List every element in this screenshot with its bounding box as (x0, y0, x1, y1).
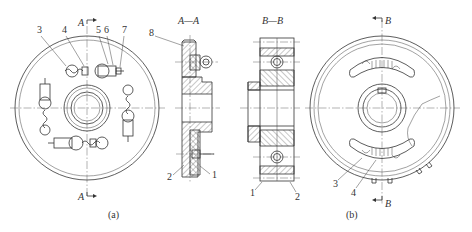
section-aa-title: A—A (177, 15, 200, 26)
spring-assembly-bottom (48, 136, 108, 150)
caption-b: (b) (346, 209, 358, 221)
label-5: 5 (96, 24, 101, 35)
section-mark-b-bottom: B (385, 198, 391, 209)
spring-assembly-right (122, 85, 134, 142)
view-a-front: A A 3 4 5 6 7 (a) (10, 17, 165, 221)
technical-drawing: A A 3 4 5 6 7 (a) A—A (0, 0, 472, 232)
caption-a: (a) (108, 209, 119, 221)
section-mark-a-bottom: A (77, 191, 85, 202)
section-bb-title: B—B (262, 15, 283, 26)
spring-assembly-top (65, 64, 124, 78)
spring-assembly-left (39, 78, 51, 135)
label-3: 3 (37, 24, 42, 35)
section-mark-b-top: B (385, 15, 391, 26)
view-section-bb: B—B 1 2 (240, 15, 300, 202)
label-1-aa: 1 (212, 169, 217, 180)
view-b-front: B B 3 4 (b) (305, 15, 460, 221)
label-8: 8 (149, 27, 154, 38)
label-4-b: 4 (351, 187, 356, 198)
view-section-aa: A—A 8 2 1 (149, 15, 220, 182)
section-mark-a-top: A (77, 17, 85, 28)
label-6: 6 (104, 24, 109, 35)
label-4: 4 (62, 24, 67, 35)
label-1-bb: 1 (250, 187, 255, 198)
label-7: 7 (122, 24, 127, 35)
label-2-bb: 2 (295, 191, 300, 202)
label-2-aa: 2 (167, 171, 172, 182)
label-3-b: 3 (333, 178, 338, 189)
